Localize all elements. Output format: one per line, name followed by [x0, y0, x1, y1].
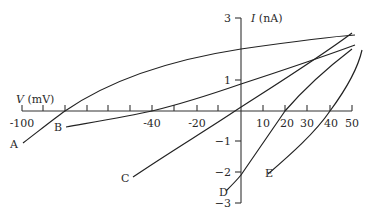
x-axis-label: V (mV) [16, 93, 54, 106]
x-tick-label: 30 [300, 117, 314, 130]
y-tick-label: −2 [215, 166, 231, 179]
x-tick-label: 20 [280, 117, 294, 130]
curve-label-a: A [9, 138, 19, 151]
x-tick-label: -20 [188, 117, 206, 130]
x-tick-label: 10 [256, 117, 270, 130]
iv-chart: -100 -40 -20 10 20 30 40 50 V (mV) 3 1 −… [0, 0, 372, 215]
y-tick-label: 1 [224, 74, 231, 87]
y-axis-label: I (nA) [250, 12, 282, 25]
curve-label-b: B [54, 121, 62, 134]
x-tick-label: -40 [143, 117, 161, 130]
x-tick-label: 50 [345, 117, 359, 130]
x-tick-label: 40 [324, 117, 338, 130]
curve-label-c: C [121, 172, 129, 185]
curve-c [133, 33, 352, 177]
curve-label-e: E [265, 167, 273, 180]
curve-label-d: D [219, 186, 228, 199]
curves [23, 33, 362, 191]
curve-e [268, 50, 362, 174]
y-tick-label: 3 [224, 12, 231, 25]
x-tick-label: -100 [10, 117, 35, 130]
y-tick-label: −1 [215, 135, 231, 148]
